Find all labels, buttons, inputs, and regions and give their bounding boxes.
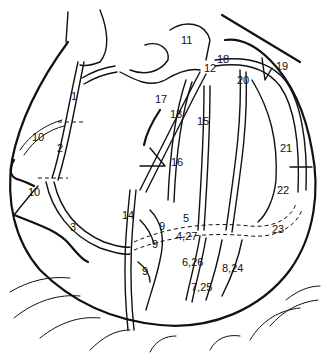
label-seg-6-26: 6,26 bbox=[182, 256, 203, 268]
label-seg-10-upper: 10 bbox=[32, 131, 44, 143]
label-seg-8-24: 8,24 bbox=[222, 262, 243, 274]
segment-16-marker bbox=[140, 148, 165, 166]
label-seg-17: 17 bbox=[155, 93, 167, 105]
diagram-canvas: 1 2 3 10 10 11 12 18 19 20 17 13 15 16 2… bbox=[0, 0, 326, 356]
om-20-vessel bbox=[226, 70, 246, 232]
label-seg-5: 5 bbox=[183, 212, 189, 224]
label-seg-16: 16 bbox=[171, 156, 183, 168]
label-seg-9b: 9 bbox=[152, 238, 158, 250]
label-seg-21: 21 bbox=[280, 142, 292, 154]
label-seg-4-27: 4,27 bbox=[176, 230, 197, 242]
label-seg-1: 1 bbox=[71, 90, 77, 102]
label-seg-23: 23 bbox=[272, 223, 284, 235]
heart-outline bbox=[10, 40, 315, 326]
label-seg-2-rca: 2 bbox=[57, 142, 63, 154]
label-seg-13: 13 bbox=[170, 108, 182, 120]
om-21-22-vessel bbox=[252, 80, 276, 222]
rca-segment-3 bbox=[46, 182, 130, 254]
label-seg-19: 19 bbox=[276, 60, 288, 72]
lad-vessel bbox=[140, 72, 206, 192]
pulmonary-trunk bbox=[120, 69, 200, 83]
inferior-wall-vessel bbox=[14, 215, 88, 262]
label-seg-18: 18 bbox=[217, 53, 229, 65]
label-seg-10-lower: 10 bbox=[28, 186, 40, 198]
left-atrial-line bbox=[222, 15, 300, 62]
diagonal-15 bbox=[198, 86, 210, 230]
label-seg-22: 22 bbox=[277, 184, 289, 196]
heart-coronary-diagram: 1 2 3 10 10 11 12 18 19 20 17 13 15 16 2… bbox=[0, 0, 326, 356]
label-seg-9c: 9 bbox=[142, 265, 148, 277]
segment-17-branch bbox=[144, 110, 160, 145]
label-seg-20: 20 bbox=[237, 74, 249, 86]
rca-vessel bbox=[52, 62, 84, 180]
rca-branch-upper bbox=[82, 66, 117, 84]
right-margin-curl bbox=[11, 160, 34, 186]
circumflex-vessel bbox=[215, 59, 306, 192]
label-seg-15: 15 bbox=[197, 115, 209, 127]
label-seg-12: 12 bbox=[204, 62, 216, 74]
label-seg-9a: 9 bbox=[159, 220, 165, 232]
label-seg-7-25: 7,25 bbox=[191, 281, 212, 293]
label-seg-14: 14 bbox=[122, 209, 134, 221]
label-seg-3: 3 bbox=[70, 221, 76, 233]
label-seg-11: 11 bbox=[181, 34, 192, 46]
